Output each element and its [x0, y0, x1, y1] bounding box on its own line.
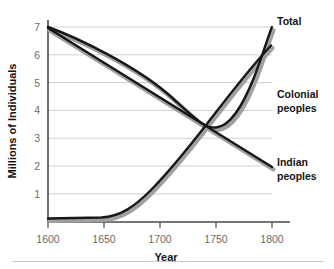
series-label-indian-line1: Indian — [277, 156, 308, 168]
series-lines — [48, 27, 272, 219]
y-axis-tick-labels: 7 6 5 4 3 2 1 — [34, 21, 40, 200]
y-tick-label: 4 — [34, 104, 40, 116]
y-tick-label: 5 — [34, 77, 40, 89]
x-tick-label: 1800 — [260, 233, 284, 245]
y-tick-label: 7 — [34, 21, 40, 33]
y-tick-label: 3 — [34, 132, 40, 144]
bottom-divider — [12, 261, 324, 262]
x-tick-label: 1750 — [204, 233, 228, 245]
x-axis-tick-labels: 1600 1650 1700 1750 1800 — [36, 233, 284, 245]
x-tick-label: 1600 — [36, 233, 60, 245]
indian-line — [48, 28, 272, 167]
chart-figure: 7 6 5 4 3 2 1 1600 1650 1700 1750 1800 Y… — [0, 0, 334, 269]
colonial-line — [48, 46, 271, 219]
x-tick-label: 1700 — [148, 233, 172, 245]
total-line-shadow — [50, 30, 274, 131]
y-tick-label: 1 — [34, 188, 40, 200]
population-line-chart: 7 6 5 4 3 2 1 1600 1650 1700 1750 1800 Y… — [0, 0, 334, 269]
series-label-total: Total — [277, 15, 301, 27]
y-tick-label: 2 — [34, 160, 40, 172]
series-label-colonial-line1: Colonial — [277, 88, 318, 100]
y-axis-title: Millions of Individuals — [6, 64, 18, 179]
x-axis-ticks — [48, 222, 272, 228]
series-label-indian-line2: peoples — [277, 170, 317, 182]
series-label-colonial-line2: peoples — [277, 102, 317, 114]
x-tick-label: 1650 — [92, 233, 116, 245]
colonial-line-shadow — [50, 48, 273, 221]
indian-line-shadow — [50, 31, 274, 170]
series-shadows — [50, 30, 274, 222]
y-tick-label: 6 — [34, 49, 40, 61]
